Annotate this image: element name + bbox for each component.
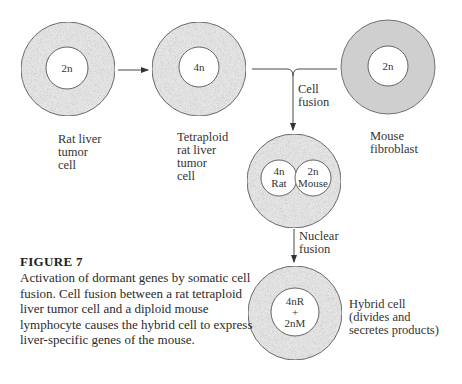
hybrid-cell: 4nR + 2nM — [248, 266, 342, 360]
mouse-nucleus-label: Mouse — [298, 177, 328, 189]
mouse-fibroblast-label: Mouse fibroblast — [370, 130, 418, 156]
rat-nucleus-label: Rat — [271, 177, 286, 189]
tetraploid-rat-liver-tumor-cell: 4n — [152, 22, 246, 116]
rat-liver-tumor-cell-label: Rat liver tumor cell — [58, 133, 101, 172]
nucleus-label: 2n — [62, 62, 74, 74]
mouse-nucleus-ploidy: 2n — [308, 165, 320, 177]
cell-fusion-label: Cell fusion — [298, 83, 329, 109]
figure-caption-text: Activation of dormant genes by somatic c… — [20, 270, 255, 348]
fused-cell: 4n Rat 2n Mouse — [247, 134, 341, 228]
nuclear-fusion-label: Nuclear fusion — [299, 230, 339, 256]
rat-liver-tumor-cell: 2n — [21, 22, 115, 116]
hybrid-nucleus-line3: 2nM — [285, 317, 306, 329]
tetraploid-cell-label: Tetraploid rat liver tumor cell — [177, 131, 228, 183]
hybrid-cell-label: Hybrid cell (divides and secretes produc… — [349, 298, 439, 337]
figure-caption: FIGURE 7 Activation of dormant genes by … — [20, 254, 255, 348]
mouse-fibroblast: 2n — [341, 20, 435, 114]
figure-title: FIGURE 7 — [20, 254, 255, 270]
nucleus-label: 4n — [194, 61, 206, 73]
nucleus-label: 2n — [383, 60, 395, 72]
rat-nucleus-ploidy: 4n — [274, 165, 286, 177]
